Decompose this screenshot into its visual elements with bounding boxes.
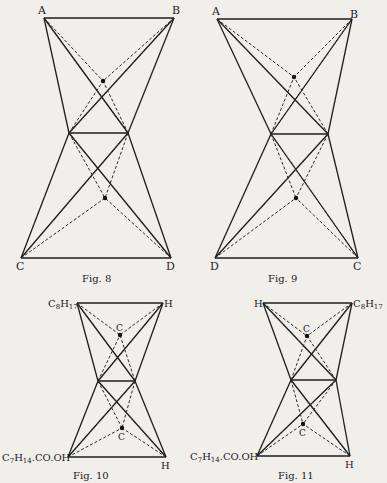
fig10-labels: C8H17 H C C C7H14.CO.OH H Fig. 10 [2,298,173,481]
dashed-bl-lo [215,198,296,258]
upper-centre-dot [305,334,309,338]
figure-lines [21,18,358,457]
figure-page: A B C D Fig. 8 A B D C Fig. 9 C8H17 H C … [0,0,387,483]
vertex-label-b: B [350,8,358,21]
substituent-c8h17: C8H17 [48,298,78,311]
dashed-bl-mr [68,381,135,457]
dashed-mr-up [103,81,128,133]
carbon-label-upper: C [116,323,123,333]
fig9-labels: A B D C Fig. 9 [210,5,361,284]
dashed-mr-up [120,335,135,381]
upper-centre-dot [101,79,105,83]
dashed-tl-up [217,19,294,77]
edge-tr-mr [135,303,163,381]
tetrahedral-diagrams: A B C D Fig. 8 A B D C Fig. 9 C8H17 H C … [0,0,387,483]
dashed-tr-ml [98,303,163,381]
substituent-c7h14-cooh: C7H14.CO.OH [190,451,259,464]
vertex-label-c: C [16,260,24,273]
carbon-label-upper: C [303,324,310,334]
upper-centre-dot [118,333,122,337]
dashed-mr-lo [105,133,128,198]
dashed-ml-up [69,81,103,133]
carbon-label-lower: C [299,428,306,438]
edge-br-mr [336,380,350,456]
dashed-tl-up [77,303,120,335]
vertex-label-h-bottom: H [161,460,170,471]
vertex-label-b: B [172,4,180,17]
dashed-tr-up [103,18,174,81]
carbon-label-lower: C [118,432,125,442]
dashed-mr-up [307,336,336,380]
edge-tl-ml [77,303,98,381]
dashed-bl-lo [68,428,122,457]
dashed-tr-up [294,19,352,77]
vertex-label-a: A [37,4,47,17]
vertex-label-d: D [210,260,219,273]
fig10-caption: Fig. 10 [73,470,109,481]
edge-tl-ml [217,19,271,134]
vertex-label-h-bottom: H [345,459,354,470]
edge-bl-ml [21,133,69,258]
lower-centre-dot [301,422,305,426]
fig8-labels: A B C D Fig. 8 [16,4,180,284]
dashed-mr-lo [296,134,328,198]
dashed-ml-lo [271,134,296,198]
dashed-br-lo [303,424,350,456]
upper-centre-dot [292,75,296,79]
vertex-label-d: D [166,260,175,273]
edge-tr-mr [128,18,174,133]
dashed-bl-lo [21,198,105,258]
dashed-tl-up [44,18,103,81]
fig11-caption: Fig. 11 [278,470,314,481]
vertex-label-h-top: H [254,298,263,309]
lower-centre-dot [120,426,124,430]
fig8-caption: Fig. 8 [82,273,111,284]
edge-br-mr [328,134,358,258]
edge-bl-ml [68,381,98,457]
dashed-tr-up [120,303,163,335]
dashed-ml-up [291,336,307,380]
lower-centre-dot [103,196,107,200]
edge-br-mr [128,133,171,258]
edge-tl-ml [263,303,291,380]
edge-br-mr [135,381,166,457]
edge-tr-mr [336,303,352,380]
fig9-caption: Fig. 9 [268,273,297,284]
vertex-label-a: A [211,5,221,18]
dashed-br-lo [296,198,358,258]
substituent-c7h14-cooh: C7H14.CO.OH [2,452,71,465]
edge-bl-ml [215,134,271,258]
vertex-label-h-top: H [164,298,173,309]
dashed-mr-up [294,77,328,134]
lower-centre-dot [294,196,298,200]
vertex-label-c: C [353,260,361,273]
substituent-c8h17: C8H17 [353,298,383,311]
